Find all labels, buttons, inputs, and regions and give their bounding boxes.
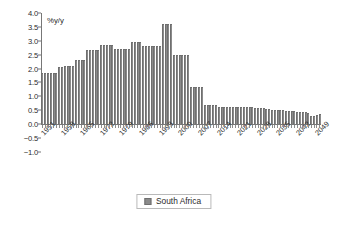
bar — [251, 107, 253, 124]
bar — [176, 55, 178, 124]
x-axis-tick-mark — [255, 125, 256, 128]
bar — [41, 73, 43, 124]
bar — [184, 55, 186, 124]
bar — [86, 50, 88, 124]
x-axis-tick-mark — [106, 125, 107, 128]
x-axis-tick-mark — [277, 125, 278, 128]
x-axis-tick-mark — [269, 125, 270, 128]
x-axis-tick-mark — [302, 125, 303, 128]
y-axis-tick-mark — [38, 124, 41, 125]
y-axis-tick-label: 1.5 — [28, 78, 38, 87]
x-axis-tick-mark — [134, 125, 135, 128]
x-axis-tick-mark — [45, 125, 46, 128]
x-axis-tick-mark — [185, 125, 186, 128]
bar — [128, 49, 130, 124]
bar — [148, 46, 150, 124]
bar — [44, 73, 46, 124]
bar — [67, 66, 69, 124]
bar — [125, 49, 127, 124]
x-axis-tick-mark — [126, 125, 127, 128]
x-axis-tick-mark — [148, 125, 149, 128]
bar — [120, 49, 122, 124]
x-axis-tick-mark — [176, 125, 177, 128]
y-axis-tick-label: 0.0 — [28, 120, 38, 129]
x-axis-tick-mark — [196, 125, 197, 128]
x-axis-tick-mark — [70, 125, 71, 128]
bar — [193, 87, 195, 124]
bar — [170, 24, 172, 124]
bar — [212, 105, 214, 124]
x-axis-tick-mark — [112, 125, 113, 128]
bar — [47, 73, 49, 124]
y-axis-tick-mark — [38, 54, 41, 55]
bar — [69, 66, 71, 124]
x-axis-tick-mark — [165, 125, 166, 128]
bar-series-south-africa — [41, 13, 321, 124]
x-axis-tick-mark — [120, 125, 121, 128]
bar — [237, 107, 239, 124]
bar — [97, 50, 99, 124]
bar — [181, 55, 183, 124]
legend-label-south-africa: South Africa — [156, 197, 201, 205]
x-axis-tick-mark — [235, 125, 236, 128]
bar — [232, 107, 234, 124]
x-axis-tick-mark — [67, 125, 68, 128]
y-axis-tick-label: 3.5 — [28, 22, 38, 31]
x-axis-tick-mark — [283, 125, 284, 128]
x-axis-tick-mark — [232, 125, 233, 128]
bar — [310, 116, 312, 124]
x-axis-tick-mark — [230, 125, 231, 128]
x-axis-tick-mark — [92, 125, 93, 128]
bar — [201, 87, 203, 124]
bar — [95, 50, 97, 124]
bar — [274, 110, 276, 124]
bar — [293, 111, 295, 124]
bar — [151, 46, 153, 124]
x-axis-tick-mark — [188, 125, 189, 128]
bar — [75, 60, 77, 124]
bar-chart: 4.03.53.02.52.01.51.00.50.0−0.5−1.0 %y/y… — [0, 0, 347, 228]
bar — [139, 42, 141, 124]
bar — [153, 46, 155, 124]
x-axis-tick-mark — [218, 125, 219, 128]
x-axis-tick-mark — [73, 125, 74, 128]
x-axis-tick-mark — [311, 125, 312, 128]
x-axis-tick-mark — [246, 125, 247, 128]
x-axis-tick-mark — [143, 125, 144, 128]
y-axis-tick-label: −0.5 — [24, 133, 38, 142]
bar — [299, 112, 301, 124]
x-axis-tick-mark — [78, 125, 79, 128]
x-axis-tick-mark — [157, 125, 158, 128]
bar — [257, 108, 259, 124]
x-axis-tick-mark — [179, 125, 180, 128]
bar — [260, 108, 262, 124]
x-axis-tick-mark — [280, 125, 281, 128]
x-axis-tick-mark — [56, 125, 57, 128]
x-axis-tick-mark — [174, 125, 175, 128]
bar — [134, 42, 136, 124]
x-axis-tick-mark — [204, 125, 205, 128]
y-axis-tick-label: 2.5 — [28, 50, 38, 59]
y-axis-tick-mark — [38, 96, 41, 97]
x-axis-tick-mark — [104, 125, 105, 128]
chart-legend: South Africa — [136, 194, 211, 209]
x-axis-tick-mark — [64, 125, 65, 128]
x-axis-tick-mark — [98, 125, 99, 128]
bar — [58, 67, 60, 124]
y-axis-tick-mark — [38, 13, 41, 14]
x-axis-tick-mark — [140, 125, 141, 128]
bar — [78, 60, 80, 124]
x-axis-tick-mark — [151, 125, 152, 128]
x-axis-tick-mark — [305, 125, 306, 128]
bar — [55, 73, 57, 124]
bar — [106, 45, 108, 124]
x-axis-tick-mark — [210, 125, 211, 128]
bar — [316, 115, 318, 124]
bar — [165, 24, 167, 124]
x-axis-tick-mark — [249, 125, 250, 128]
x-axis-tick-mark — [50, 125, 51, 128]
y-axis-tick-mark — [38, 110, 41, 111]
x-axis-tick-mark — [193, 125, 194, 128]
y-axis-tick-label: 0.5 — [28, 106, 38, 115]
bar — [72, 66, 74, 124]
